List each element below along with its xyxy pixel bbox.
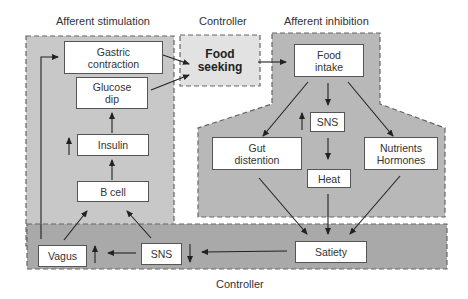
node-glucose-dip: Glucose dip — [76, 77, 148, 109]
arrow-vagus-to-bcell — [64, 211, 87, 240]
arrow-vagus-to-gastric — [41, 57, 58, 239]
node-sns-top: SNS — [310, 112, 345, 132]
node-food-seeking: Food seeking — [182, 37, 258, 84]
node-nutrients-hormones: Nutrients Hormones — [364, 137, 438, 170]
arrow-nutrients-to-satiety — [350, 176, 400, 234]
arrow-intake-to-gut — [263, 82, 308, 136]
node-vagus: Vagus — [38, 245, 87, 267]
node-food-intake: Food intake — [294, 44, 364, 77]
node-gastric-contraction: Gastric contraction — [64, 41, 163, 74]
node-gut-distention: Gut distention — [212, 137, 302, 170]
node-insulin: Insulin — [77, 134, 149, 156]
arrow-sns-to-bcell — [127, 211, 151, 238]
node-heat: Heat — [307, 169, 351, 188]
node-sns-bottom: SNS — [141, 243, 182, 265]
arrow-intake-to-nutrients — [348, 82, 393, 136]
node-b-cell: B cell — [77, 181, 149, 202]
node-satiety: Satiety — [295, 241, 367, 263]
arrow-satiety-to-sns — [202, 251, 287, 252]
arrow-gut-to-satiety — [259, 178, 307, 234]
